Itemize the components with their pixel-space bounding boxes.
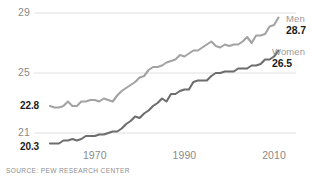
series-line-men	[50, 18, 279, 108]
women-start-value-label: 20.3	[20, 141, 39, 152]
y-axis-tick-25: 25	[18, 66, 30, 78]
gridlines	[34, 13, 296, 133]
men-start-value-label: 22.8	[20, 100, 39, 111]
series-lines	[50, 18, 279, 144]
men-end-value-label: 28.7	[286, 24, 306, 36]
men-series-label: Men	[286, 13, 305, 24]
source-note: SOURCE: PEW RESEARCH CENTER	[6, 167, 130, 174]
women-series-label: Women	[272, 46, 305, 57]
x-axis-tick-1970: 1970	[79, 149, 111, 161]
chart-container: 29 25 21 1970 1990 2010 22.8 20.3 Men 28…	[0, 0, 311, 182]
y-axis-tick-21: 21	[18, 126, 30, 138]
x-axis-tick-2010: 2010	[258, 149, 290, 161]
x-axis-tick-1990: 1990	[168, 149, 200, 161]
y-axis-tick-29: 29	[18, 6, 30, 18]
women-end-value-label: 26.5	[272, 57, 292, 69]
